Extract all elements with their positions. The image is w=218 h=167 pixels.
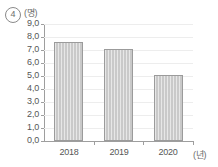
y-tick-label: 8,0	[13, 31, 39, 41]
y-tick-label: 5,0	[13, 70, 39, 80]
x-tick-label: 2019	[99, 147, 139, 157]
y-tick-label: 0,0	[13, 135, 39, 145]
y-tick-mark	[41, 141, 44, 142]
bar-2018	[54, 42, 83, 141]
y-tick-label: 7,0	[13, 44, 39, 54]
y-tick-label: 9,0	[13, 18, 39, 28]
y-tick-mark	[41, 50, 44, 51]
gridline	[44, 37, 193, 38]
y-tick-mark	[41, 128, 44, 129]
x-tick-mark	[193, 142, 194, 145]
y-tick-mark	[41, 102, 44, 103]
y-tick-mark	[41, 37, 44, 38]
gridline	[44, 24, 193, 25]
y-axis-tick-labels: 9,08,07,06,05,04,03,02,01,00,0	[11, 0, 39, 167]
y-tick-label: 2,0	[13, 109, 39, 119]
x-axis-unit-label: (년)	[193, 148, 206, 161]
y-tick-mark	[41, 24, 44, 25]
plot-area	[44, 24, 193, 141]
y-tick-mark	[41, 76, 44, 77]
y-tick-mark	[41, 89, 44, 90]
x-axis-line	[44, 141, 194, 142]
y-tick-label: 6,0	[13, 57, 39, 67]
chart-figure: 4 (명) 9,08,07,06,05,04,03,02,01,00,0 201…	[0, 0, 218, 167]
x-tick-label: 2018	[49, 147, 89, 157]
bar-2020	[154, 75, 183, 141]
y-tick-label: 4,0	[13, 83, 39, 93]
y-tick-mark	[41, 63, 44, 64]
x-tick-mark	[143, 142, 144, 145]
x-tick-mark	[94, 142, 95, 145]
y-tick-label: 3,0	[13, 96, 39, 106]
x-tick-label: 2020	[148, 147, 188, 157]
bar-2019	[104, 49, 133, 141]
y-tick-mark	[41, 115, 44, 116]
y-tick-label: 1,0	[13, 122, 39, 132]
